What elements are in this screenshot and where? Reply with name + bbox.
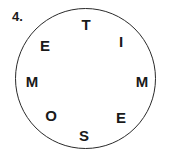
circle-letter: O — [45, 108, 57, 123]
puzzle-number: 4. — [12, 9, 23, 24]
circle-letter: S — [79, 128, 89, 143]
circle-letter: M — [136, 74, 149, 89]
circle-letter: T — [81, 17, 90, 32]
circle-letter: E — [116, 110, 126, 125]
circle-letter: I — [119, 34, 123, 49]
circle-letter: E — [40, 38, 50, 53]
circle-letter: M — [26, 74, 39, 89]
